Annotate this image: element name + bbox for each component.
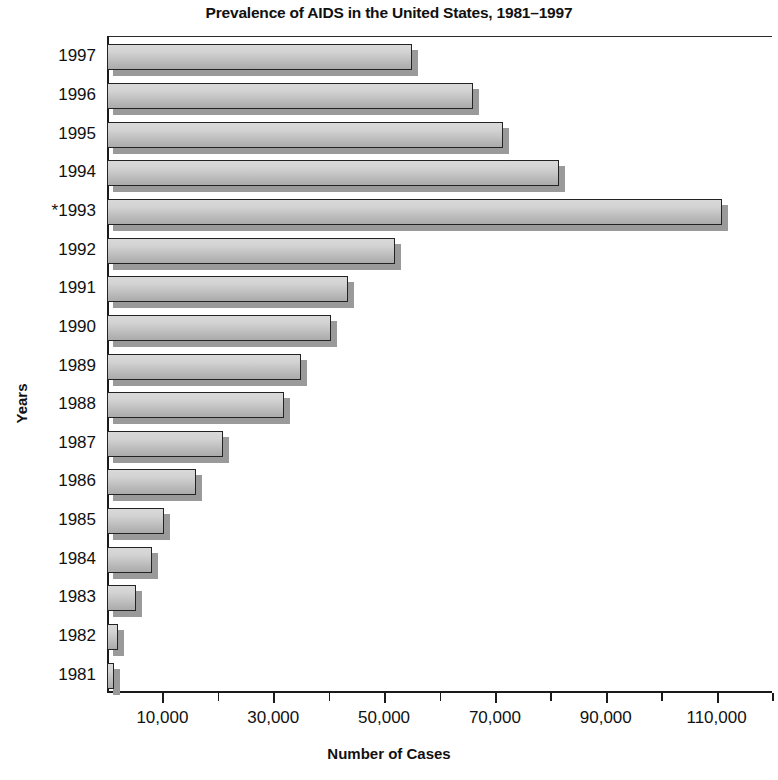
bar-fill — [107, 238, 395, 264]
bar-fill — [107, 354, 301, 380]
bar-1994 — [107, 160, 772, 186]
bar-fill — [107, 315, 331, 341]
bar-fill — [107, 431, 223, 457]
x-tick-label-10000: 10,000 — [136, 708, 188, 728]
bar-1983 — [107, 585, 772, 611]
x-tick-label-50000: 50,000 — [358, 708, 410, 728]
y-tick-label-1989: 1989 — [58, 356, 96, 376]
x-tick-100000 — [661, 693, 663, 701]
y-tick-label-star1993: *1993 — [52, 201, 96, 221]
y-tick-label-1997: 1997 — [58, 46, 96, 66]
y-tick-label-1991: 1991 — [58, 278, 96, 298]
y-axis-title: Years — [13, 359, 30, 449]
bars-layer — [107, 36, 772, 693]
x-tick-50000 — [384, 693, 386, 703]
bar-1990 — [107, 315, 772, 341]
x-tick-label-30000: 30,000 — [247, 708, 299, 728]
bar-fill — [107, 276, 348, 302]
x-tick-40000 — [329, 693, 331, 701]
y-tick-label-1988: 1988 — [58, 394, 96, 414]
bar-1988 — [107, 392, 772, 418]
bar-1986 — [107, 469, 772, 495]
bar-star1993 — [107, 199, 772, 225]
y-tick-label-1990: 1990 — [58, 317, 96, 337]
bar-fill — [107, 508, 164, 534]
bar-1991 — [107, 276, 772, 302]
bar-1985 — [107, 508, 772, 534]
x-tick-90000 — [606, 693, 608, 703]
bar-fill — [107, 392, 284, 418]
x-axis-tick-labels: 10,00030,00050,00070,00090,000110,000 — [0, 708, 778, 736]
bar-1987 — [107, 431, 772, 457]
bar-1989 — [107, 354, 772, 380]
bar-fill — [107, 199, 722, 225]
bar-1981 — [107, 663, 772, 689]
bar-fill — [107, 624, 118, 650]
bar-fill — [107, 122, 503, 148]
y-tick-label-1985: 1985 — [58, 510, 96, 530]
bar-1997 — [107, 44, 772, 70]
plot-area — [107, 36, 772, 693]
chart-title: Prevalence of AIDS in the United States,… — [0, 4, 778, 22]
aids-prevalence-bar-chart: Prevalence of AIDS in the United States,… — [0, 0, 778, 780]
x-tick-70000 — [495, 693, 497, 703]
bar-1984 — [107, 547, 772, 573]
x-tick-80000 — [550, 693, 552, 701]
bar-1982 — [107, 624, 772, 650]
y-tick-label-1986: 1986 — [58, 471, 96, 491]
y-tick-label-1983: 1983 — [58, 587, 96, 607]
x-tick-label-90000: 90,000 — [580, 708, 632, 728]
y-tick-label-1981: 1981 — [58, 665, 96, 685]
bar-fill — [107, 585, 136, 611]
x-tick-label-110000: 110,000 — [686, 708, 746, 728]
x-tick-60000 — [440, 693, 442, 701]
bar-1995 — [107, 122, 772, 148]
x-tick-110000 — [717, 693, 719, 703]
bar-fill — [107, 469, 196, 495]
x-tick-label-70000: 70,000 — [469, 708, 521, 728]
y-tick-label-1992: 1992 — [58, 240, 96, 260]
y-tick-label-1987: 1987 — [58, 433, 96, 453]
bar-fill — [107, 663, 114, 689]
x-tick-20000 — [218, 693, 220, 701]
y-tick-label-1996: 1996 — [58, 85, 96, 105]
x-tick-120000 — [772, 693, 774, 701]
y-tick-label-1982: 1982 — [58, 626, 96, 646]
bar-1992 — [107, 238, 772, 264]
bar-fill — [107, 83, 473, 109]
y-tick-label-1994: 1994 — [58, 162, 96, 182]
bar-1996 — [107, 83, 772, 109]
bar-fill — [107, 44, 412, 70]
x-tick-10000 — [162, 693, 164, 703]
x-axis-ticks — [107, 693, 772, 705]
x-tick-30000 — [273, 693, 275, 703]
bar-fill — [107, 160, 559, 186]
y-tick-label-1995: 1995 — [58, 124, 96, 144]
x-axis-title: Number of Cases — [0, 745, 778, 762]
y-tick-label-1984: 1984 — [58, 549, 96, 569]
bar-fill — [107, 547, 152, 573]
